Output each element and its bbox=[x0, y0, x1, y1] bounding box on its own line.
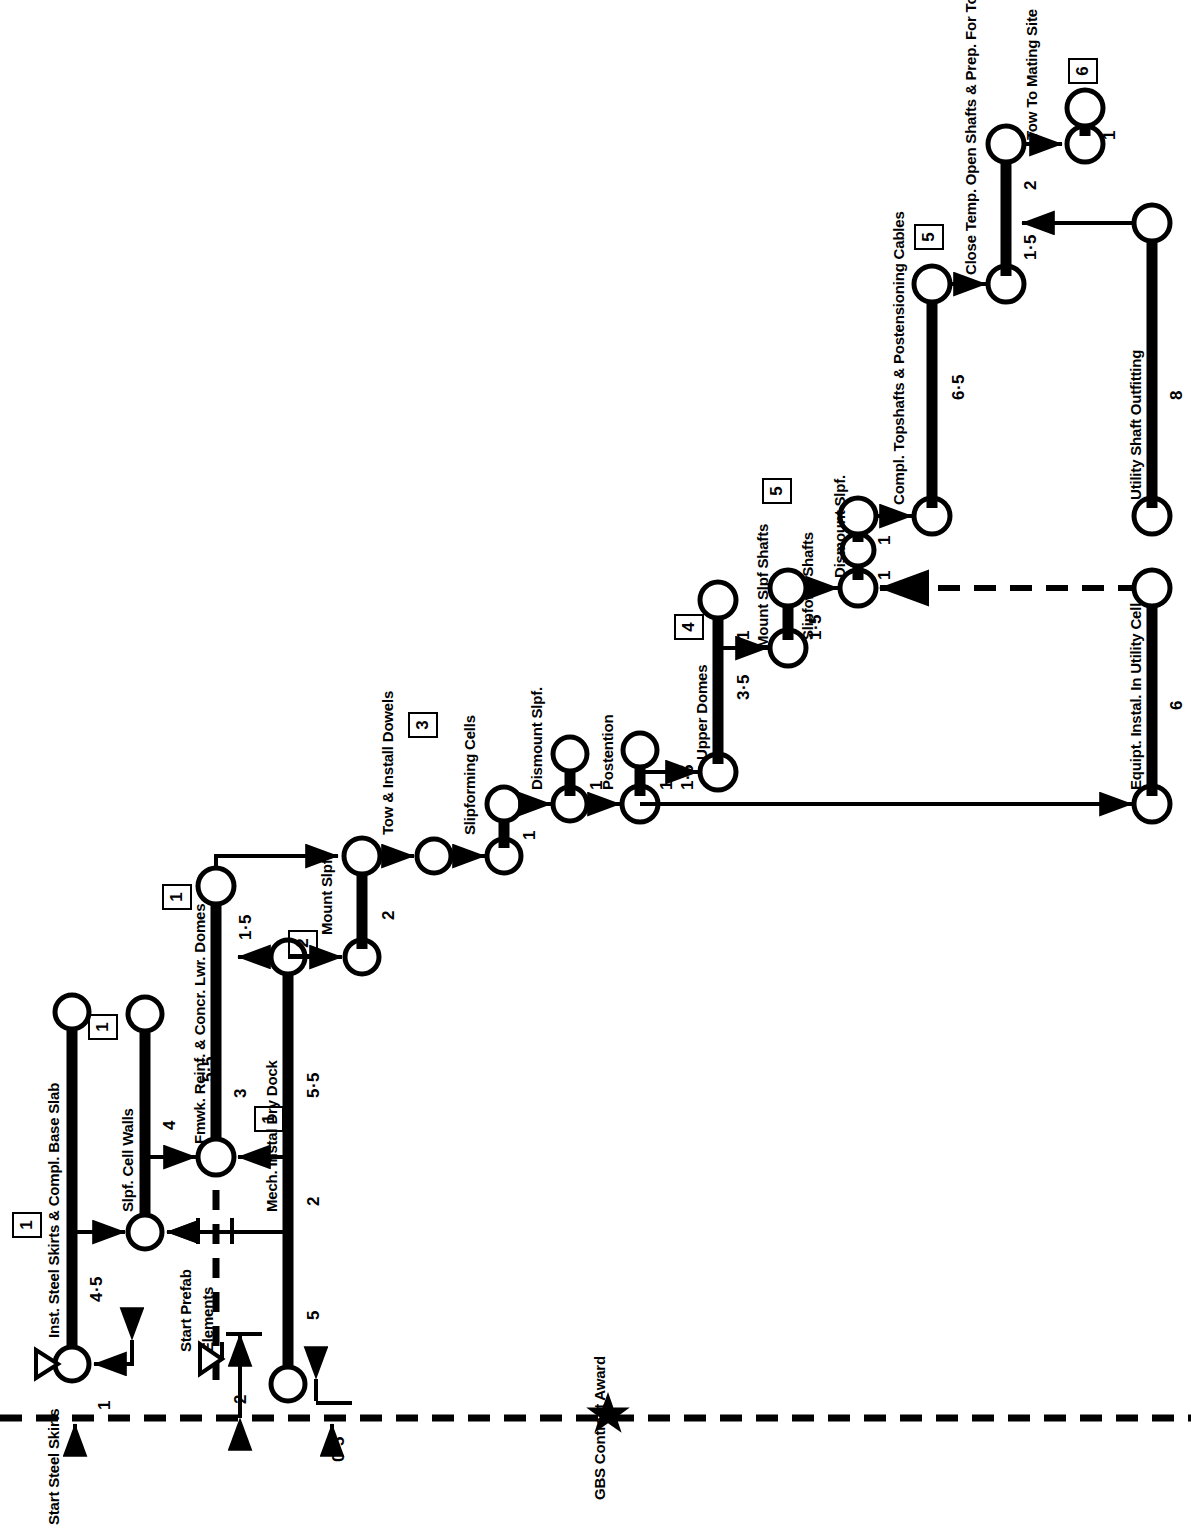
duration-close-temp: 1·5 bbox=[1022, 234, 1040, 260]
duration-mount-slpf: 2 bbox=[380, 910, 398, 920]
network-diagram-canvas: Inst. Steel Skirts & Compl. Base Slab 4·… bbox=[0, 0, 1191, 1531]
duration-tow-mating-bar: 1 bbox=[1101, 130, 1119, 140]
milestone-box: 1 bbox=[162, 884, 192, 910]
duration-dismount-b: 1 bbox=[876, 535, 894, 545]
activity-label-utility-shaft-outfitting: Utility Shaft Outfitting bbox=[1128, 350, 1144, 500]
event-node bbox=[623, 733, 657, 767]
event-node bbox=[700, 582, 736, 618]
duration-upper-domes: 3·5 bbox=[735, 674, 753, 700]
activity-label-compl-topshafts: Compl. Topshafts & Postensioning Cables bbox=[890, 211, 907, 505]
milestone-box: 3 bbox=[408, 712, 438, 738]
duration-equipt-instal: 6 bbox=[1168, 700, 1186, 710]
activity-label-inst-steel-skirts: Inst. Steel Skirts & Compl. Base Slab bbox=[46, 1083, 62, 1338]
activity-label-dismount-slpf-2: Dismount Slpf. bbox=[832, 475, 848, 578]
milestone-box: 1 bbox=[12, 1212, 42, 1238]
duration-compl-topshafts: 6·5 bbox=[950, 374, 968, 400]
event-label-gbs-contract-award: GBS Contract Award bbox=[592, 1356, 608, 1500]
duration-drydock-lower: 5 bbox=[305, 1310, 323, 1320]
milestone-box: 4 bbox=[674, 614, 704, 640]
event-node bbox=[487, 787, 521, 821]
event-label-start-prefab: Start Prefab bbox=[178, 1269, 194, 1352]
event-node bbox=[198, 868, 234, 904]
event-node bbox=[988, 126, 1024, 162]
milestone-box: 2 bbox=[288, 930, 318, 956]
duration-slpf-cell-walls: 4 bbox=[161, 1120, 179, 1130]
event-node bbox=[198, 1139, 234, 1175]
duration-slipform-shafts: 1·5 bbox=[807, 614, 825, 640]
activity-label-upper-domes: Upper Domes bbox=[694, 665, 710, 760]
activity-label-equipt-instal: Equipt. Instal. In Utility Cell bbox=[1128, 603, 1144, 790]
duration-postention: 1·5 bbox=[679, 764, 697, 790]
duration-fmwk-lwr-domes: 3 bbox=[232, 1088, 250, 1098]
milestone-box: 6 bbox=[1068, 58, 1098, 84]
event-node bbox=[1134, 570, 1170, 606]
duration-lwr-domes-arm: 5·5 bbox=[200, 1056, 218, 1082]
milestone-box: 5 bbox=[914, 224, 944, 250]
event-node bbox=[553, 737, 587, 771]
duration-slipforming-cells: 1 bbox=[521, 830, 539, 840]
event-node bbox=[271, 1367, 305, 1401]
duration-inst-steel-skirts: 4·5 bbox=[88, 1276, 106, 1302]
duration-mount-slpf-shafts: 1 bbox=[735, 630, 753, 640]
activity-label-slpf-cell-walls: Slpf. Cell Walls bbox=[120, 1108, 136, 1212]
event-node bbox=[128, 1215, 162, 1249]
event-node bbox=[417, 839, 451, 873]
event-node bbox=[1134, 205, 1170, 241]
duration-fmwk-link: 1·5 bbox=[237, 914, 255, 940]
activity-label-postention: Postention bbox=[600, 715, 616, 791]
duration-postention-link: 1 bbox=[658, 780, 676, 790]
event-node bbox=[128, 997, 162, 1031]
milestone-box: 1 bbox=[88, 1014, 118, 1040]
triangle-flag-icon-prefab bbox=[196, 1340, 236, 1382]
duration-mech-dry-dock: 5·5 bbox=[305, 1072, 323, 1098]
duration-tow-mating: 2 bbox=[1022, 180, 1040, 190]
event-node bbox=[55, 995, 89, 1029]
duration-mech-drydock-lead: 0·5 bbox=[330, 1436, 348, 1462]
milestone-box: 1 bbox=[254, 1106, 284, 1132]
activity-label-mount-slpf: Mount Slpf. bbox=[318, 856, 335, 935]
activity-label-dismount-slpf-1: Dismount Slpf. bbox=[528, 687, 545, 790]
event-node bbox=[344, 838, 380, 874]
duration-utility-shaft-outfitting: 8 bbox=[1168, 390, 1186, 400]
activity-label-mount-slpf-shafts: Mount Slpf Shafts bbox=[754, 524, 771, 648]
duration-dismount-a: 1 bbox=[876, 570, 894, 580]
dimension-value-2: 2 bbox=[232, 1394, 250, 1404]
milestone-box: 5 bbox=[762, 478, 792, 504]
duration-start-skirts-lead: 1 bbox=[96, 1400, 114, 1410]
triangle-flag-icon bbox=[36, 1350, 58, 1378]
activity-label-mech-dry-dock: Mech. Instal Dry Dock bbox=[264, 1060, 280, 1212]
activity-label-close-temp: Close Temp. Open Shafts & Prep. For Tow bbox=[962, 0, 979, 275]
event-node bbox=[1067, 90, 1103, 126]
event-node bbox=[914, 266, 950, 302]
duration-drydock-branch-2: 2 bbox=[305, 1196, 323, 1206]
event-label-start-steel-skirts: Start Steel Skirts bbox=[46, 1409, 62, 1525]
activity-label-slipforming-cells: Slipforming Cells bbox=[462, 715, 478, 835]
activity-label-tow-install-dowels: Tow & Install Dowels bbox=[380, 691, 396, 835]
activity-label-fmwk-lwr-domes: Fmwk. Reinf. & Concr. Lwr. Domes bbox=[192, 904, 208, 1144]
activity-label-tow-to-mating-site: Tow To Mating Site bbox=[1024, 9, 1040, 140]
